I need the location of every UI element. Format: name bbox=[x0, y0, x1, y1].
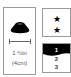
level-2-label: 2 bbox=[43, 56, 70, 63]
level-panel: 1 2 3 bbox=[42, 43, 71, 73]
rating-panel: ★ ★ bbox=[42, 8, 71, 37]
size-imperial-label: 1 ½in bbox=[4, 50, 35, 57]
dimension-line-icon bbox=[9, 39, 31, 44]
level-1-label: 1 bbox=[43, 47, 70, 54]
star-icon: ★ bbox=[42, 26, 71, 35]
level-3-label: 3 bbox=[43, 64, 70, 71]
size-metric-label: (4cm) bbox=[4, 60, 35, 67]
star-icon: ★ bbox=[42, 15, 71, 24]
cap-disc-icon bbox=[9, 21, 31, 34]
size-panel: 1 ½in (4cm) bbox=[3, 7, 36, 75]
